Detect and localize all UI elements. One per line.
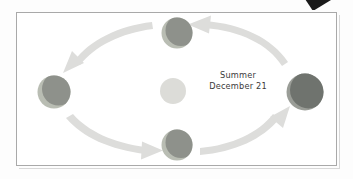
orbit-scene: [0, 0, 353, 179]
arrow-top-left: [63, 22, 153, 73]
season-caption: Summer December 21: [198, 70, 278, 91]
arrow-top-right: [188, 16, 288, 67]
sun-body: [160, 78, 186, 104]
earth-bottom: [162, 127, 197, 161]
season-name: Summer: [198, 70, 278, 81]
earth-left: [38, 73, 76, 109]
diagram-canvas: Summer December 21: [0, 0, 353, 179]
earth-top: [162, 15, 197, 49]
page-corner-wedge-icon: [305, 0, 331, 10]
season-date: December 21: [198, 81, 278, 92]
arrow-bottom-right: [200, 106, 290, 155]
earth-right: [287, 72, 328, 111]
arrow-bottom-left: [66, 114, 163, 160]
